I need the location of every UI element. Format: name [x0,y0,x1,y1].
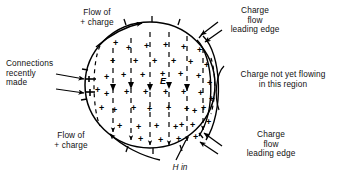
positive-charge-symbol: + [144,42,149,51]
positive-charge-symbol: + [179,121,184,130]
positive-charge-symbol: + [190,121,195,130]
positive-charge-symbol: + [181,43,186,52]
positive-charge-symbol: + [163,41,168,50]
label-charge-not-yet-flowing: Charge not yet flowing in this region [222,70,344,89]
positive-charge-symbol: + [181,88,186,97]
positive-charge-symbol: + [171,57,176,66]
positive-charge-symbol: + [131,104,136,113]
positive-charge-symbol: + [143,88,148,97]
label-charge-flow-leading-edge-top: Charge flow leading edge [205,6,305,35]
label-charge-flow-leading-edge-bottom: Charge flow leading edge [232,130,310,159]
label-flow-bottom: Flow of + charge [31,131,111,150]
positive-charge-symbol: + [197,46,202,55]
positive-charge-symbol: + [184,105,189,114]
positive-charge-symbol: + [117,122,122,131]
positive-charge-symbol: + [192,107,197,116]
positive-charge-symbol: + [198,89,203,98]
positive-charge-symbol: + [95,86,100,95]
positive-charge-symbol: + [176,135,181,144]
positive-charge-symbol: + [158,136,163,145]
positive-charge-symbol: + [196,72,201,81]
label-connections-recently-made: Connections recently made [6,59,78,88]
label-h-in: H in [163,163,197,173]
positive-charge-symbol: + [207,79,212,88]
positive-charge-symbol: + [152,57,157,66]
positive-charge-symbol: + [204,61,209,70]
positive-charge-symbol: + [188,58,193,67]
positive-charge-symbol: + [110,57,115,66]
positive-charge-symbol: + [104,73,109,82]
positive-charge-symbol: + [140,71,145,80]
positive-charge-symbol: + [112,106,117,115]
positive-charge-symbol: + [138,135,143,144]
positive-charge-symbol: + [99,104,104,113]
positive-charge-symbol: + [173,123,178,132]
positive-charge-symbol: + [209,95,214,104]
label-e-field: E [160,76,166,86]
positive-charge-symbol: + [126,44,131,53]
positive-charge-symbol: + [113,39,118,48]
positive-charge-symbol: + [121,71,126,80]
positive-charge-symbol: + [193,133,198,142]
leading-edge-arrows-bottom [200,133,222,154]
positive-charge-symbol: + [206,118,211,127]
positive-charge-symbol: + [163,88,168,97]
positive-charge-symbol: + [133,57,138,66]
positive-charge-symbol: + [178,70,183,79]
positive-charge-symbol: + [104,90,109,99]
positive-charge-symbol: + [136,123,141,132]
label-flow-top: Flow of + charge [54,8,140,27]
positive-charge-symbol: + [124,88,129,97]
positive-charge-symbol: + [166,104,171,113]
positive-charge-symbol: + [147,105,152,114]
positive-charge-symbol: + [154,122,159,131]
positive-charge-symbol: + [201,104,206,113]
